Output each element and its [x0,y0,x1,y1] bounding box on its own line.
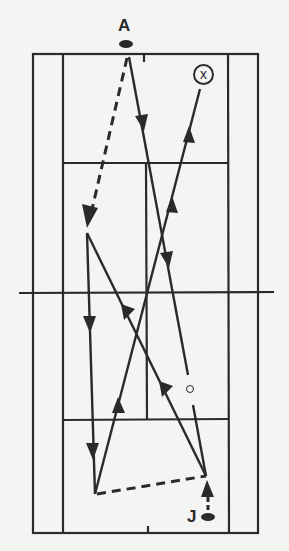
player-a-label: A [118,16,130,36]
arrow-up-icon [166,196,178,213]
tennis-court-diagram [0,0,289,551]
player-a-marker [119,40,133,48]
arrow-up-icon [112,397,125,413]
player-j-label: J [187,507,196,527]
arrow-down-icon [83,316,96,333]
target-x-icon: x [193,64,214,85]
path-a-feed-dashed [90,58,127,218]
ball-marker-icon [186,385,194,393]
singles-sideline-right [228,54,229,533]
player-j-marker [201,513,215,521]
arrow-down-icon [82,204,98,228]
path-bottom-dashed [97,476,206,494]
arrow-up-icon [183,126,195,143]
arrow-down-icon [86,443,99,460]
arrow-up-icon [201,480,214,497]
ball-paths [82,57,214,510]
